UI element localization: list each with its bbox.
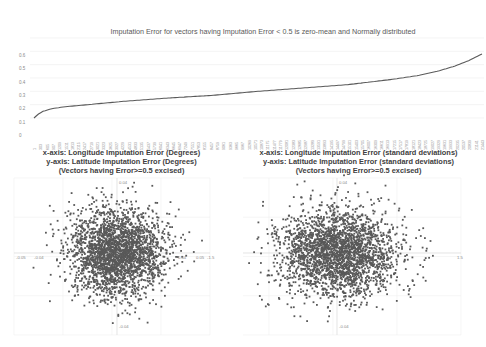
x-tick-label: 1.5 — [457, 255, 463, 260]
y-tick-label: 0.04 — [119, 180, 127, 185]
scatter-stddev-plot — [243, 140, 486, 347]
y-tick-label: 0.04 — [339, 180, 347, 185]
y-tick-label: 0.4 — [19, 80, 25, 85]
x-tick-label: -0.04 — [34, 255, 44, 260]
line-chart-panel: Imputation Error for vectors having Impu… — [0, 18, 486, 140]
y-tick-label: -0.04 — [339, 324, 349, 329]
y-tick-label: 0.3 — [19, 93, 25, 98]
y-tick-label: 0.1 — [19, 120, 25, 125]
x-tick-label: 0.04 — [178, 255, 186, 260]
scatter-degrees-panel: x-axis: Longitude Imputation Error (Degr… — [0, 140, 243, 347]
x-tick-label: 0.05 — [196, 255, 204, 260]
scatter-degrees-plot — [0, 140, 243, 347]
y-tick-label: 0.5 — [19, 66, 25, 71]
scatter-stddev-panel: x-axis: Longitude Imputation Error (stan… — [243, 140, 486, 347]
y-tick-label: 0 — [19, 133, 22, 138]
line-chart-plot — [0, 18, 486, 140]
y-tick-label: -0.04 — [119, 324, 129, 329]
x-tick-label: -0.05 — [16, 255, 26, 260]
y-tick-label: 0.2 — [19, 106, 25, 111]
y-tick-label: 0.6 — [19, 53, 25, 58]
x-tick-label: -1.5 — [207, 255, 214, 260]
